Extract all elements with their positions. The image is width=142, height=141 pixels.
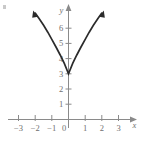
y-axis-name: y: [59, 5, 64, 15]
y-label-2: 2: [59, 84, 63, 94]
x-label-minus1: −1: [47, 123, 56, 133]
x-label-3: 3: [116, 123, 120, 133]
x-label-minus3: −3: [14, 123, 23, 133]
x-label-1: 1: [83, 123, 87, 133]
x-label-minus2: −2: [31, 123, 40, 133]
origin-label: 0: [62, 123, 66, 133]
x-axis-name: x: [132, 120, 137, 130]
parabola-left-arrowhead: [32, 11, 38, 18]
y-axis-arrowhead: [66, 4, 72, 11]
y-label-6: 6: [59, 23, 63, 33]
y-label-3: 3: [59, 69, 63, 79]
y-label-5: 5: [59, 38, 63, 48]
x-label-2: 2: [100, 123, 104, 133]
parabola-figure: −3 −2 −1 1 2 3 0 1 2 3 4 5 6 y x: [0, 0, 142, 141]
parabola-right-arrowhead: [99, 11, 105, 18]
y-label-1: 1: [59, 99, 63, 109]
graph-canvas: −3 −2 −1 1 2 3 0 1 2 3 4 5 6 y x: [0, 0, 142, 141]
